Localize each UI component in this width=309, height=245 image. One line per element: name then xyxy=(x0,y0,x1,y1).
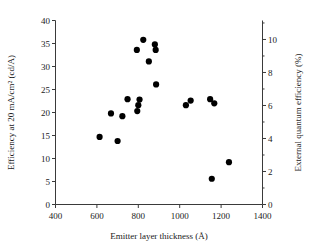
data-point xyxy=(146,58,152,64)
data-point xyxy=(136,97,142,103)
figure-scatter-plot: 4006008001000120014000510152025303540024… xyxy=(0,0,309,245)
data-point xyxy=(115,138,121,144)
axes-group xyxy=(56,21,263,205)
data-point xyxy=(153,81,159,87)
data-point xyxy=(134,47,140,53)
y-tick-label: 20 xyxy=(41,108,51,118)
chart-canvas: 4006008001000120014000510152025303540024… xyxy=(0,0,309,245)
x-tick-label: 600 xyxy=(90,211,104,221)
data-point xyxy=(209,176,215,182)
x-tick-label: 400 xyxy=(49,211,63,221)
data-point xyxy=(119,113,125,119)
y-tick-label: 25 xyxy=(41,85,51,95)
y-tick-label: 30 xyxy=(41,62,51,72)
x-tick-label: 1200 xyxy=(212,211,231,221)
y-axis-label: Efficiency at 20 mA/cm² (cd/A) xyxy=(6,55,16,170)
data-point xyxy=(135,102,141,108)
ticks-group xyxy=(52,21,266,209)
data-points-group xyxy=(96,37,232,182)
x-tick-label: 1400 xyxy=(254,211,273,221)
data-point xyxy=(188,97,194,103)
data-point xyxy=(183,102,189,108)
y-tick-label: 15 xyxy=(41,131,51,141)
data-point xyxy=(152,41,158,47)
data-point xyxy=(96,134,102,140)
y-tick-label: 10 xyxy=(41,154,51,164)
x-tick-label: 1000 xyxy=(171,211,190,221)
y2-tick-label: 10 xyxy=(268,35,278,45)
y2-tick-label: 4 xyxy=(268,134,273,144)
y2-tick-label: 0 xyxy=(268,200,273,210)
y-tick-label: 40 xyxy=(41,16,51,26)
y-tick-label: 0 xyxy=(46,200,51,210)
x-tick-label: 800 xyxy=(132,211,146,221)
y2-axis-label: External quantum efficiency (%) xyxy=(293,53,303,171)
y-tick-label: 35 xyxy=(41,39,51,49)
y2-tick-label: 2 xyxy=(268,167,273,177)
y2-tick-label: 8 xyxy=(268,68,273,78)
data-point xyxy=(211,100,217,106)
data-point xyxy=(124,96,130,102)
y2-tick-label: 6 xyxy=(268,101,273,111)
data-point xyxy=(226,159,232,165)
tick-labels-group: 4006008001000120014000510152025303540024… xyxy=(41,16,278,221)
data-point xyxy=(153,47,159,53)
x-axis-label: Emitter layer thickness (Å) xyxy=(110,231,208,241)
data-point xyxy=(108,110,114,116)
y-tick-label: 5 xyxy=(46,177,51,187)
data-point xyxy=(140,37,146,43)
data-point xyxy=(134,108,140,114)
